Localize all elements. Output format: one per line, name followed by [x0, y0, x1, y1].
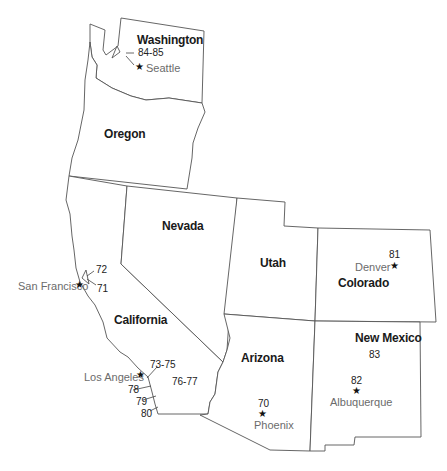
number-label-73-75: 73-75	[150, 360, 176, 370]
state-label-utah: Utah	[260, 257, 286, 269]
city-label-phoenix[interactable]: Phoenix	[254, 420, 294, 431]
number-label-71: 71	[97, 284, 108, 294]
state-label-nevada: Nevada	[162, 220, 204, 232]
number-label-84-85: 84-85	[138, 48, 164, 58]
city-label-seattle[interactable]: Seattle	[146, 63, 180, 74]
number-label-76-77: 76-77	[172, 377, 198, 387]
state-label-washington: Washington	[137, 34, 203, 46]
number-label-81: 81	[389, 250, 400, 260]
star-icon: ★	[258, 409, 267, 419]
state-label-new-mexico: New Mexico	[355, 332, 422, 344]
number-label-78: 78	[128, 385, 139, 395]
number-label-79: 79	[136, 397, 147, 407]
state-label-arizona: Arizona	[241, 352, 284, 364]
number-label-80: 80	[141, 409, 152, 419]
state-label-oregon: Oregon	[104, 128, 145, 140]
state-label-california: California	[114, 314, 167, 326]
city-label-denver[interactable]: Denver	[355, 262, 390, 273]
number-label-72: 72	[96, 265, 107, 275]
state-label-colorado: Colorado	[338, 277, 389, 289]
star-icon: ★	[135, 62, 144, 72]
star-icon: ★	[75, 280, 84, 290]
city-label-los-angeles[interactable]: Los Angeles	[84, 372, 144, 383]
city-label-albuquerque[interactable]: Albuquerque	[330, 397, 392, 408]
state-colorado[interactable]	[315, 228, 436, 322]
number-label-83: 83	[369, 350, 380, 360]
star-icon: ★	[352, 386, 361, 396]
star-icon: ★	[390, 261, 399, 271]
star-icon: ★	[136, 370, 145, 380]
